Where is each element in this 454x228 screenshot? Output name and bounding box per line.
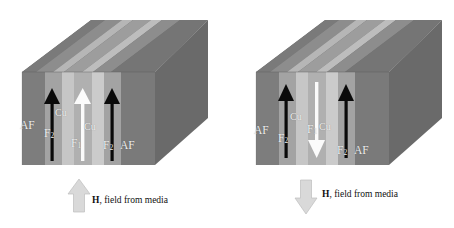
multilayer-figure: AF F2 Cu F1 Cu F2 AF H, field from media: [0, 0, 454, 228]
block-diagram-left: [0, 0, 227, 228]
caption-field-left: H, field from media: [92, 196, 168, 206]
panel-antiparallel-state: AF F2 Cu F1 Cu F2 AF H, field from media: [227, 0, 454, 228]
block-front-face-left: [22, 72, 155, 165]
field-caption-text: , field from media: [329, 189, 398, 199]
arrow-field-from-media-left: [68, 179, 90, 212]
layer-cu-left: [296, 72, 308, 165]
field-caption-text: , field from media: [99, 195, 168, 205]
layer-af-left: [22, 72, 45, 165]
layer-af-right: [121, 72, 155, 165]
layer-af-right: [355, 72, 389, 165]
layer-cu-right: [92, 72, 104, 165]
panel-parallel-state: AF F2 Cu F1 Cu F2 AF H, field from media: [0, 0, 227, 228]
arrow-field-from-media-right: [295, 180, 317, 214]
layer-cu-left: [62, 72, 74, 165]
layer-af-left: [256, 72, 279, 165]
block-front-face-right: [256, 72, 389, 165]
caption-field-right: H, field from media: [322, 190, 398, 200]
layer-cu-right: [326, 72, 338, 165]
